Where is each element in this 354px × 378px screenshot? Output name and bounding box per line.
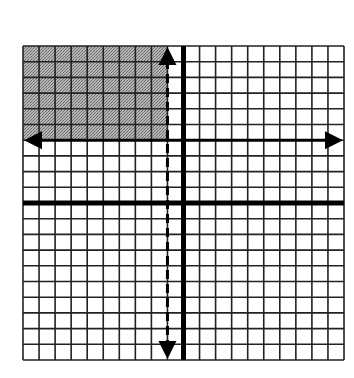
arrow-down-icon bbox=[158, 341, 176, 359]
arrow-right-icon bbox=[325, 131, 343, 149]
coordinate-grid bbox=[0, 0, 354, 378]
